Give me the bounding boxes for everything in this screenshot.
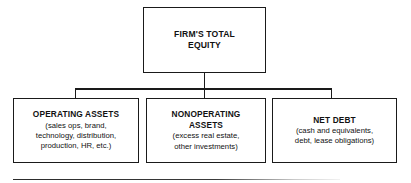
connector-drop-nonoperating-assets bbox=[204, 88, 205, 98]
node-net-debt-title: NET DEBT bbox=[313, 115, 356, 126]
node-firms-total-equity: FIRM'S TOTAL EQUITY bbox=[143, 7, 266, 73]
node-firms-total-equity-title: FIRM'S TOTAL EQUITY bbox=[174, 29, 235, 52]
node-operating-assets-detail: (sales ops, brand, technology, distribut… bbox=[36, 121, 116, 152]
node-operating-assets-title: OPERATING ASSETS bbox=[33, 109, 119, 120]
node-operating-assets: OPERATING ASSETS (sales ops, brand, tech… bbox=[13, 98, 139, 163]
node-net-debt-detail: (cash and equivalents, debt, lease oblig… bbox=[295, 126, 374, 146]
node-nonoperating-assets-title: NONOPERATING ASSETS bbox=[172, 109, 241, 130]
org-hierarchy-diagram: FIRM'S TOTAL EQUITY OPERATING ASSETS (sa… bbox=[0, 0, 411, 183]
node-nonoperating-assets: NONOPERATING ASSETS (excess real estate,… bbox=[146, 98, 266, 163]
node-net-debt: NET DEBT (cash and equivalents, debt, le… bbox=[272, 98, 397, 163]
bottom-divider-rule bbox=[13, 179, 340, 180]
connector-drop-net-debt bbox=[331, 88, 332, 98]
node-nonoperating-assets-detail: (excess real estate, other investments) bbox=[173, 131, 240, 151]
connector-drop-operating-assets bbox=[75, 88, 76, 98]
connector-root-stem bbox=[204, 73, 205, 89]
